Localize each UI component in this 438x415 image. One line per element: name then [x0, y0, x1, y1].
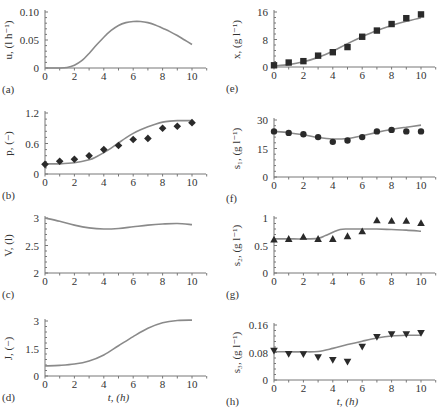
panel-b: 024681000.61.2p, (−)(b): [2, 107, 207, 202]
data-point-circle-marker: [388, 127, 394, 133]
y-tick-label: 0.10: [20, 6, 40, 18]
data-point-square-marker: [359, 34, 365, 40]
model-curve: [274, 335, 421, 352]
y-axis-label: u, (l h⁻¹): [2, 20, 15, 59]
panel-e: 02468100816x, (g l⁻¹)(e): [226, 6, 436, 95]
data-point-square-marker: [344, 44, 350, 50]
y-axis-label: x, (g l⁻¹): [230, 20, 243, 59]
y-tick-label: 3: [34, 315, 40, 327]
x-tick-label: 0: [271, 275, 277, 287]
y-tick-label: 0: [263, 171, 269, 183]
data-point-square-marker: [374, 27, 380, 33]
y-axis-label: V, (l): [2, 234, 15, 257]
data-point-circle-marker: [418, 128, 424, 134]
panel-h: 024681000.080.16s₃, (g l⁻¹)(h)t, (h): [226, 319, 436, 408]
x-tick-label: 8: [389, 275, 395, 287]
data-point-square-marker: [330, 49, 336, 55]
data-point-square-marker: [300, 58, 306, 64]
data-point-circle-marker: [374, 128, 380, 134]
figure-canvas: 024681000.050.10u, (l h⁻¹)(a)024681000.6…: [0, 0, 438, 415]
y-tick-label: 2: [34, 267, 40, 279]
model-curve: [45, 320, 192, 366]
x-tick-label: 4: [101, 176, 107, 188]
y-tick-label: 15: [257, 143, 269, 155]
x-tick-label: 6: [130, 378, 136, 390]
y-tick-label: 0.5: [254, 240, 268, 252]
x-tick-label: 6: [359, 179, 365, 191]
y-tick-label: 0.05: [20, 34, 40, 46]
x-tick-label: 8: [160, 70, 166, 82]
x-tick-label: 6: [359, 382, 365, 394]
model-curve: [274, 18, 421, 66]
x-tick-label: 2: [72, 275, 78, 287]
x-tick-label: 8: [160, 275, 166, 287]
y-tick-label: 0: [34, 370, 40, 382]
data-point-triangle-down-marker: [300, 351, 308, 358]
x-tick-label: 0: [42, 275, 48, 287]
y-tick-label: 0: [34, 62, 40, 74]
x-tick-label: 6: [359, 275, 365, 287]
y-tick-label: 2.5: [25, 240, 39, 252]
data-point-square-marker: [315, 52, 321, 58]
x-tick-label: 2: [301, 179, 307, 191]
x-tick-label: 10: [187, 378, 199, 390]
data-point-circle-marker: [344, 137, 350, 143]
data-point-triangle-up-marker: [417, 219, 425, 226]
data-point-triangle-down-marker: [329, 357, 337, 364]
data-point-triangle-up-marker: [403, 217, 411, 224]
panel-label: (a): [2, 83, 15, 96]
y-tick-label: 8: [263, 34, 269, 46]
y-axis-label: s₂, (g l⁻¹): [230, 224, 243, 266]
y-tick-label: 1: [263, 212, 269, 224]
x-axis-label: t, (h): [337, 395, 359, 408]
data-point-triangle-up-marker: [300, 233, 308, 240]
x-tick-label: 6: [130, 70, 136, 82]
x-tick-label: 0: [271, 69, 277, 81]
y-axis-label: s₃, (g l⁻¹): [230, 331, 243, 373]
data-point-square-marker: [388, 21, 394, 27]
model-curve: [45, 218, 192, 229]
data-point-triangle-up-marker: [344, 232, 352, 239]
data-point-circle-marker: [359, 134, 365, 140]
y-tick-label: 16: [257, 6, 269, 18]
data-point-triangle-up-marker: [329, 235, 337, 242]
panel-c: 024681022.53V, (l)(c): [2, 212, 207, 301]
data-point-circle-marker: [300, 131, 306, 137]
x-tick-label: 6: [130, 176, 136, 188]
data-point-triangle-down-marker: [358, 344, 366, 351]
x-tick-label: 2: [72, 378, 78, 390]
x-axis-label: t, (h): [108, 391, 130, 404]
data-point-diamond-marker: [129, 136, 137, 144]
x-tick-label: 10: [416, 275, 428, 287]
x-tick-label: 2: [301, 382, 307, 394]
x-tick-label: 0: [42, 378, 48, 390]
y-tick-label: 0.08: [249, 347, 269, 359]
x-tick-label: 4: [330, 382, 336, 394]
y-tick-label: 0: [34, 168, 40, 180]
data-point-square-marker: [271, 62, 277, 68]
data-point-diamond-marker: [144, 135, 152, 143]
x-tick-label: 0: [42, 176, 48, 188]
y-tick-label: 1.5: [25, 343, 39, 355]
y-axis-label: s₁, (g l⁻¹): [230, 127, 243, 169]
x-tick-label: 8: [389, 69, 395, 81]
x-tick-label: 4: [101, 275, 107, 287]
panel-label: (b): [2, 189, 15, 202]
x-tick-label: 4: [101, 70, 107, 82]
data-point-circle-marker: [271, 128, 277, 134]
x-tick-label: 4: [101, 378, 107, 390]
x-tick-label: 10: [416, 69, 428, 81]
y-tick-label: 0: [263, 267, 269, 279]
data-point-circle-marker: [286, 130, 292, 136]
x-tick-label: 6: [130, 275, 136, 287]
data-point-circle-marker: [403, 128, 409, 134]
x-tick-label: 0: [271, 382, 277, 394]
x-tick-label: 10: [416, 179, 428, 191]
panel-label: (h): [226, 395, 239, 408]
x-tick-label: 2: [72, 70, 78, 82]
panel-label: (g): [226, 288, 239, 301]
panel-g: 024681000.51s₂, (g l⁻¹)(g): [226, 212, 436, 301]
y-axis-label: p, (−): [2, 131, 15, 156]
data-point-triangle-down-marker: [314, 354, 322, 361]
data-point-diamond-marker: [174, 122, 182, 130]
